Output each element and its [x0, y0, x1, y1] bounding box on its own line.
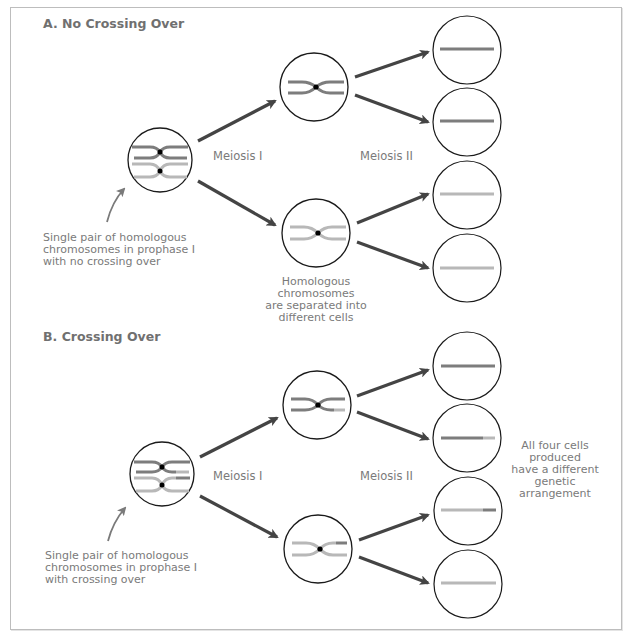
- arrow-a-mi-down: [198, 181, 275, 225]
- section-b-final-cell-1: [433, 332, 501, 400]
- section-a-final-cell-1: [433, 16, 501, 84]
- arrow-b-mii-3: [359, 515, 428, 540]
- section-b-final-cell-4: [434, 550, 502, 618]
- section-b-pointer-arrow: [108, 508, 125, 541]
- section-a-initial-cell: [128, 128, 192, 192]
- section-b-initial-cell: [130, 442, 194, 506]
- arrow-a-mii-1: [355, 52, 428, 77]
- arrow-b-mii-2: [357, 412, 428, 439]
- arrow-a-mii-3: [357, 194, 428, 223]
- arrow-b-mii-4: [359, 557, 428, 583]
- section-a-final-cell-4: [433, 234, 501, 302]
- arrow-a-mii-4: [357, 242, 428, 268]
- section-b-mi-cell-dark: [283, 371, 351, 439]
- section-b-final-cell-3: [434, 477, 502, 545]
- section-a-pointer-arrow: [107, 189, 124, 222]
- section-a-mi-cell-light: [282, 199, 350, 267]
- arrow-b-mii-1: [357, 370, 428, 396]
- arrow-a-mi-up: [198, 101, 275, 141]
- section-b-mi-cell-light: [284, 515, 352, 583]
- arrow-b-mi-down: [200, 496, 277, 537]
- meiosis-diagram: A. No Crossing Over Meiosis I Meiosis II…: [0, 0, 630, 637]
- section-a-final-cell-3: [433, 161, 501, 229]
- diagram-graphics: [0, 0, 630, 637]
- section-a-final-cell-2: [433, 88, 501, 156]
- arrow-b-mi-up: [200, 418, 277, 457]
- section-a-mi-cell-dark: [280, 53, 348, 121]
- section-b-final-cell-2: [433, 404, 501, 472]
- arrow-a-mii-2: [355, 95, 428, 122]
